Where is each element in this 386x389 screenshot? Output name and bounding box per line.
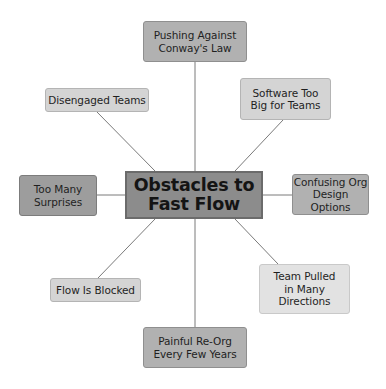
node-team-pulled: Team Pulled in Many Directions: [259, 264, 350, 314]
edge-software-too-big: [235, 120, 283, 171]
node-painful-reorg: Painful Re-Org Every Few Years: [143, 327, 247, 368]
mind-map-diagram: Pushing Against Conway's Law Disengaged …: [0, 0, 386, 389]
central-topic-label: Obstacles to Fast Flow: [134, 176, 255, 214]
node-label: Confusing Org Design Options: [293, 176, 368, 214]
node-label: Painful Re-Org Every Few Years: [153, 335, 236, 360]
node-label: Team Pulled in Many Directions: [274, 270, 336, 308]
node-confusing-org-design: Confusing Org Design Options: [292, 174, 369, 215]
edge-disengaged-teams: [97, 112, 155, 171]
node-too-many-surprises: Too Many Surprises: [19, 175, 97, 216]
node-label: Pushing Against Conway's Law: [154, 29, 236, 54]
node-disengaged-teams: Disengaged Teams: [45, 88, 149, 112]
node-label: Software Too Big for Teams: [251, 87, 321, 112]
node-software-too-big: Software Too Big for Teams: [240, 78, 331, 120]
node-conways-law: Pushing Against Conway's Law: [143, 21, 247, 62]
node-flow-is-blocked: Flow Is Blocked: [50, 278, 141, 302]
node-label: Flow Is Blocked: [56, 284, 135, 297]
node-label: Too Many Surprises: [34, 183, 82, 208]
node-label: Disengaged Teams: [48, 94, 145, 107]
central-topic: Obstacles to Fast Flow: [125, 171, 263, 219]
edge-team-pulled: [235, 219, 278, 264]
edge-flow-is-blocked: [98, 219, 155, 278]
